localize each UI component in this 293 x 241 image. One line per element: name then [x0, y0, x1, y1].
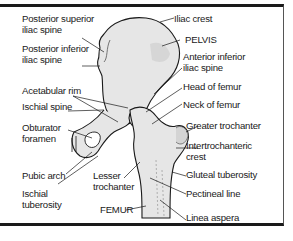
label-line: FEMUR — [100, 204, 133, 215]
label-line: Pectineal line — [186, 188, 240, 199]
label-line: Lesser — [93, 170, 134, 181]
label-line: crest — [186, 151, 252, 162]
label-lesser-trochanter: Lesser trochanter — [93, 170, 134, 192]
label-line: PELVIS — [185, 34, 217, 45]
label-gluteal-tuberosity: Gluteal tuberosity — [186, 169, 257, 180]
label-line: Neck of femur — [183, 99, 240, 110]
label-iliac-crest: Iliac crest — [174, 13, 212, 24]
label-line: foramen — [22, 133, 61, 144]
label-line: iliac spine — [22, 54, 89, 65]
label-line: Greater trochanter — [186, 120, 261, 131]
femur-bone — [130, 107, 188, 218]
label-obturator-foramen: Obturator foramen — [22, 122, 61, 144]
label-line: trochanter — [93, 181, 134, 192]
label-line: Anterior inferior — [183, 51, 245, 62]
label-anterior-inferior-iliac-spine: Anterior inferior iliac spine — [183, 51, 245, 73]
label-line: Pubic arch — [22, 170, 65, 181]
label-line: Gluteal tuberosity — [186, 169, 257, 180]
label-line: Intertrochanteric — [186, 140, 252, 151]
label-femur: FEMUR — [100, 204, 133, 215]
label-line: Posterior superior — [22, 13, 94, 24]
label-posterior-superior-iliac-spine: Posterior superior iliac spine — [22, 13, 94, 35]
label-neck-of-femur: Neck of femur — [183, 99, 240, 110]
label-linea-aspera: Linea aspera — [186, 212, 239, 223]
label-head-of-femur: Head of femur — [183, 81, 241, 92]
label-ischial-tuberosity: Ischial tuberosity — [22, 188, 62, 210]
label-pubic-arch: Pubic arch — [22, 170, 65, 181]
label-pelvis: PELVIS — [185, 34, 217, 45]
label-line: Head of femur — [183, 81, 241, 92]
label-line: Posterior inferior — [22, 43, 89, 54]
label-line: Ischial spine — [22, 101, 72, 112]
label-pectineal-line: Pectineal line — [186, 188, 240, 199]
label-line: iliac spine — [183, 62, 245, 73]
label-line: Obturator — [22, 122, 61, 133]
label-line: tuberosity — [22, 199, 62, 210]
label-ischial-spine: Ischial spine — [22, 101, 72, 112]
label-line: Linea aspera — [186, 212, 239, 223]
label-line: Ischial — [22, 188, 62, 199]
label-line: Iliac crest — [174, 13, 212, 24]
label-acetabular-rim: Acetabular rim — [22, 85, 81, 96]
label-line: Acetabular rim — [22, 85, 81, 96]
label-posterior-inferior-iliac-spine: Posterior inferior iliac spine — [22, 43, 89, 65]
label-line: iliac spine — [22, 24, 94, 35]
label-greater-trochanter: Greater trochanter — [186, 120, 261, 131]
label-intertrochanteric-crest: Intertrochanteric crest — [186, 140, 252, 162]
